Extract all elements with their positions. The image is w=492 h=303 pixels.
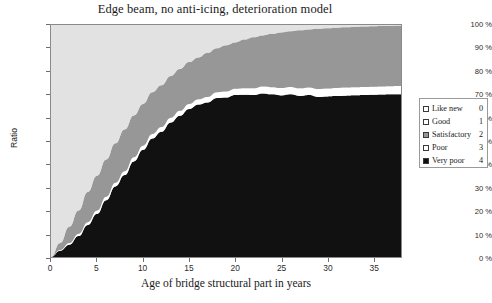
x-tick-label: 20 [231, 263, 240, 273]
x-tick-label: 10 [138, 263, 147, 273]
x-tick-mark [50, 258, 51, 262]
stacked-area-series [51, 25, 401, 257]
legend-swatch-icon [423, 158, 429, 164]
y-tick-label: 90 % [448, 43, 492, 52]
legend-item-very-poor[interactable]: Very poor4 [423, 154, 485, 167]
y-tick-label: 100 % [448, 20, 492, 29]
legend-item-value: 1 [479, 117, 483, 126]
legend-item-label: Good [432, 117, 477, 126]
x-tick-label: 0 [48, 263, 53, 273]
x-tick-mark [328, 258, 329, 262]
x-tick-label: 35 [370, 263, 379, 273]
legend: Like new0Good1Satisfactory2Poor3Very poo… [419, 98, 488, 168]
x-tick-label: 30 [323, 263, 332, 273]
legend-swatch-icon [423, 145, 429, 151]
legend-swatch-icon [423, 106, 429, 112]
legend-item-value: 4 [479, 156, 483, 165]
y-tick-label: 20 % [448, 207, 492, 216]
legend-swatch-icon [423, 119, 429, 125]
legend-item-poor[interactable]: Poor3 [423, 141, 485, 154]
x-axis-title: Age of bridge structural part in years [50, 277, 402, 289]
y-tick-label: 80 % [448, 66, 492, 75]
chart-canvas: Edge beam, no anti-icing, deterioration … [0, 0, 492, 303]
plot-area [50, 24, 402, 258]
legend-item-label: Poor [432, 143, 477, 152]
legend-item-value: 3 [479, 143, 483, 152]
y-tick-label: 0 % [448, 254, 492, 263]
y-tick-label: 10 % [448, 230, 492, 239]
legend-item-good[interactable]: Good1 [423, 115, 485, 128]
legend-item-label: Very poor [432, 156, 477, 165]
x-tick-mark [96, 258, 97, 262]
legend-item-satisfactory[interactable]: Satisfactory2 [423, 128, 485, 141]
x-tick-mark [189, 258, 190, 262]
legend-item-value: 2 [479, 130, 483, 139]
y-axis-title: Ratio [9, 108, 19, 168]
chart-title: Edge beam, no anti-icing, deterioration … [0, 2, 430, 17]
x-tick-mark [282, 258, 283, 262]
legend-item-like-new[interactable]: Like new0 [423, 102, 485, 115]
x-tick-mark [235, 258, 236, 262]
x-tick-label: 25 [277, 263, 286, 273]
legend-item-label: Satisfactory [432, 130, 477, 139]
legend-item-value: 0 [479, 104, 483, 113]
x-tick-mark [143, 258, 144, 262]
x-tick-label: 5 [94, 263, 99, 273]
legend-item-label: Like new [432, 104, 477, 113]
y-tick-label: 30 % [448, 183, 492, 192]
legend-swatch-icon [423, 132, 429, 138]
x-tick-mark [374, 258, 375, 262]
x-tick-label: 15 [184, 263, 193, 273]
